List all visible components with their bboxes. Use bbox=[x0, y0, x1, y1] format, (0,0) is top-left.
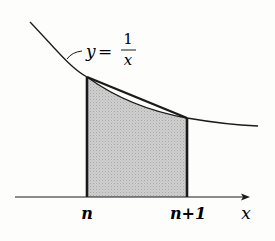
shaded-area bbox=[87, 77, 187, 197]
tick-label-n-plus-1: n+1 bbox=[170, 204, 206, 223]
label-leader-line bbox=[67, 51, 82, 59]
curve-label-equals: = bbox=[98, 41, 112, 61]
curve-label: y = 1 x bbox=[85, 30, 136, 69]
curve-label-numerator: 1 bbox=[123, 30, 133, 48]
diagram-figure: y = 1 x n n+1 x bbox=[0, 0, 275, 241]
curve-label-denominator: x bbox=[124, 51, 133, 69]
x-axis-label: x bbox=[241, 203, 251, 223]
curve-label-y: y bbox=[85, 41, 96, 61]
tick-label-n: n bbox=[81, 204, 93, 223]
